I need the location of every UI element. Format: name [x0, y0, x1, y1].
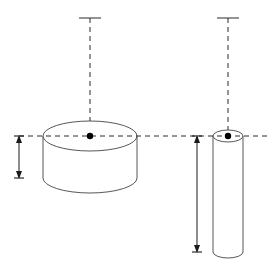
vertical-centerline-right-group	[217, 18, 239, 140]
left-center-dot	[87, 133, 93, 139]
technical-drawing-canvas	[0, 0, 279, 280]
right-center-dot	[225, 133, 231, 139]
left-cylinder-shape	[43, 121, 137, 193]
right-cylinder-shape	[213, 130, 243, 258]
right-height-dimension	[192, 135, 202, 253]
right-cylinder-body	[213, 136, 243, 258]
left-height-dimension	[14, 135, 24, 179]
cylinder-comparison-diagram	[0, 0, 279, 280]
